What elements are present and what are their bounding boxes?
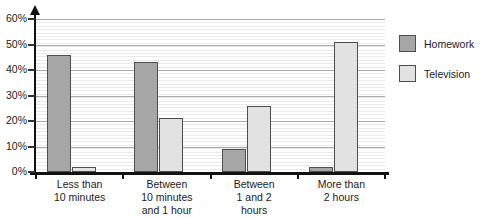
- legend-swatch-homework: [399, 35, 416, 52]
- bar-chart: 0%10%20%30%40%50%60% Less than10 minutes…: [0, 0, 487, 218]
- x-axis-label-line: 2 hours: [298, 191, 385, 204]
- bar-television-1: [159, 118, 183, 172]
- x-axis-label-line: Between: [211, 178, 298, 191]
- y-tick-mark-30: [28, 95, 35, 97]
- legend-label: Homework: [424, 38, 474, 50]
- bar-homework-2: [222, 149, 246, 172]
- x-axis-label-line: hours: [211, 204, 298, 217]
- x-axis-label-line: More than: [298, 178, 385, 191]
- y-tick-mark-50: [28, 44, 35, 46]
- x-axis-label-line: Less than: [36, 178, 123, 191]
- gridline-40: [36, 70, 385, 71]
- legend: HomeworkTelevision: [399, 35, 487, 95]
- y-tick-label: 60%: [1, 13, 27, 24]
- y-tick-mark-10: [28, 146, 35, 148]
- x-axis-label-0: Less than10 minutes: [36, 178, 123, 204]
- bar-television-3: [334, 42, 358, 172]
- gridline-30: [36, 96, 385, 97]
- y-tick-label: 50%: [1, 39, 27, 50]
- y-tick-label: 40%: [1, 64, 27, 75]
- y-axis-arrow-icon: [30, 5, 40, 15]
- bar-television-2: [247, 106, 271, 172]
- x-axis-label-1: Between10 minutesand 1 hour: [123, 178, 210, 217]
- x-axis-label-line: Between: [123, 178, 210, 191]
- y-tick-mark-60: [28, 18, 35, 20]
- gridline-50: [36, 45, 385, 46]
- legend-item-television[interactable]: Television: [399, 65, 487, 82]
- plot-area: [36, 19, 385, 172]
- gridline-10: [36, 147, 385, 148]
- bar-homework-0: [47, 55, 71, 172]
- y-tick-label: 30%: [1, 90, 27, 101]
- y-tick-mark-40: [28, 69, 35, 71]
- y-tick-mark-20: [28, 120, 35, 122]
- legend-item-homework[interactable]: Homework: [399, 35, 487, 52]
- x-axis-label-line: 1 and 2: [211, 191, 298, 204]
- legend-label: Television: [424, 68, 470, 80]
- gridline-60: [36, 19, 385, 20]
- x-axis-label-3: More than2 hours: [298, 178, 385, 204]
- y-tick-label: 0%: [1, 166, 27, 177]
- bar-homework-1: [134, 62, 158, 172]
- x-axis-label-line: 10 minutes: [123, 191, 210, 204]
- y-tick-mark-0: [28, 171, 35, 173]
- x-axis-label-line: 10 minutes: [36, 191, 123, 204]
- gridline-20: [36, 121, 385, 122]
- y-axis-line: [34, 13, 36, 174]
- x-axis-label-2: Between1 and 2hours: [211, 178, 298, 217]
- y-tick-label: 10%: [1, 141, 27, 152]
- legend-swatch-television: [399, 65, 416, 82]
- y-tick-label: 20%: [1, 115, 27, 126]
- x-axis-label-line: and 1 hour: [123, 204, 210, 217]
